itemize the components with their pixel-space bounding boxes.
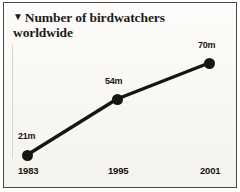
data-point-marker[interactable]: [204, 58, 215, 69]
x-axis-tick-label: 1983: [18, 165, 38, 176]
data-point-label: 70m: [198, 40, 215, 50]
figure-frame: ▼Number of birdwatchers worldwide 21m 54…: [3, 2, 237, 188]
data-point-marker[interactable]: [112, 94, 123, 105]
x-axis-tick-label: 2001: [200, 165, 220, 176]
data-point-label: 54m: [105, 76, 122, 86]
chart-plot-area: 21m 54m 70m 1983 1995 2001: [4, 3, 237, 188]
data-point-marker[interactable]: [22, 150, 33, 161]
x-axis-tick-label: 1995: [108, 165, 128, 176]
figure-container: ▼Number of birdwatchers worldwide 21m 54…: [0, 0, 240, 192]
data-point-label: 21m: [18, 131, 35, 141]
